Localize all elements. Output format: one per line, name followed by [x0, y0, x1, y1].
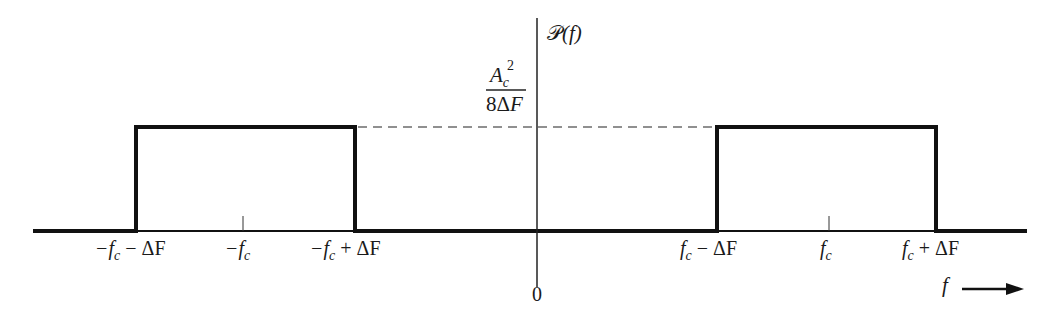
- tick-label-pos-fc-plus-dF: fc + ΔF: [902, 237, 959, 263]
- tick-label-neg-fc: −fc: [225, 237, 251, 263]
- tick-label-neg-fc-minus-dF: −fc − ΔF: [95, 237, 166, 263]
- level-numerator-sup: 2: [507, 58, 514, 73]
- tick-label-pos-fc: fc: [820, 237, 833, 263]
- spectrum-trace: [35, 127, 1025, 231]
- x-axis-label: f: [942, 273, 951, 297]
- psd-diagram: 𝒫(f) Ac 2 8ΔF −fc − ΔF −fc −fc + ΔF fc −…: [0, 0, 1055, 322]
- tick-label-pos-fc-minus-dF: fc − ΔF: [680, 237, 737, 263]
- y-axis-label: 𝒫(f): [547, 21, 582, 45]
- level-denominator: 8ΔF: [486, 92, 523, 116]
- origin-label: 0: [532, 283, 542, 305]
- x-axis-arrow-icon: [962, 283, 1024, 295]
- tick-label-neg-fc-plus-dF: −fc + ΔF: [310, 237, 381, 263]
- right-band-rect: [717, 127, 936, 231]
- left-band-rect: [136, 127, 355, 231]
- level-label: Ac 2 8ΔF: [486, 58, 526, 116]
- level-numerator-base: A: [488, 63, 503, 87]
- level-numerator-sub: c: [503, 75, 510, 90]
